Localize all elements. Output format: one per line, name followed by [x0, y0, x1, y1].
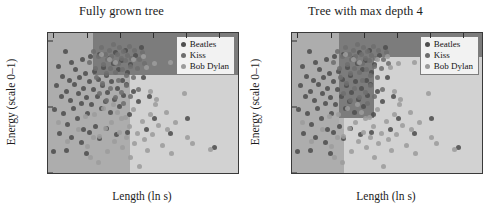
scatter-point-bob-dylan	[356, 139, 361, 144]
scatter-point-kiss	[100, 81, 105, 86]
scatter-point-beatles	[383, 45, 388, 50]
scatter-point-bob-dylan	[56, 120, 61, 125]
scatter-point-beatles	[75, 116, 80, 121]
scatter-point-beatles	[72, 82, 77, 87]
scatter-point-beatles	[51, 149, 56, 154]
scatter-point-bob-dylan	[309, 139, 314, 144]
scatter-point-kiss	[91, 49, 96, 54]
scatter-point-beatles	[325, 127, 330, 132]
legend-item-label: Bob Dylan	[190, 62, 229, 71]
scatter-point-beatles	[69, 60, 74, 65]
legend-item-label: Kiss	[434, 51, 450, 60]
scatter-point-beatles	[313, 60, 318, 65]
scatter-point-beatles	[307, 49, 312, 54]
scatter-point-bob-dylan	[389, 148, 394, 153]
scatter-point-kiss	[113, 95, 118, 100]
scatter-point-bob-dylan	[332, 155, 337, 160]
scatter-point-bob-dylan	[327, 114, 332, 119]
scatter-point-beatles	[68, 98, 73, 103]
scatter-point-bob-dylan	[190, 141, 195, 146]
legend-item-bob-dylan[interactable]: Bob Dylan	[181, 62, 229, 71]
scatter-point-beatles	[353, 79, 358, 84]
x-tick-mark	[120, 33, 121, 38]
x-tick-mark	[430, 33, 431, 38]
scatter-point-kiss	[364, 67, 369, 72]
legend-item-label: Beatles	[434, 40, 461, 49]
scatter-point-kiss	[121, 101, 126, 106]
scatter-point-bob-dylan	[379, 131, 384, 136]
scatter-point-beatles	[60, 74, 65, 79]
x-tick-mark	[463, 33, 464, 38]
scatter-point-kiss	[351, 48, 356, 53]
scatter-point-bob-dylan	[88, 155, 93, 160]
scatter-point-beatles	[327, 71, 332, 76]
scatter-point-bob-dylan	[413, 151, 418, 156]
scatter-point-beatles	[71, 106, 76, 111]
scatter-point-kiss	[124, 83, 129, 88]
scatter-point-bob-dylan	[103, 126, 108, 131]
scatter-point-bob-dylan	[150, 132, 155, 137]
y-axis-label-left: Energy (scale 0–1)	[4, 32, 18, 172]
scatter-point-kiss	[352, 86, 357, 91]
scatter-point-beatles	[77, 75, 82, 80]
scatter-point-beatles	[325, 86, 330, 91]
scatter-point-bob-dylan	[400, 123, 405, 128]
scatter-point-beatles	[57, 131, 62, 136]
scatter-point-bob-dylan	[381, 164, 386, 169]
legend-item-beatles[interactable]: Beatles	[181, 40, 229, 49]
scatter-point-beatles	[385, 75, 390, 80]
scatter-point-kiss	[352, 66, 357, 71]
scatter-point-kiss	[108, 86, 113, 91]
scatter-point-kiss	[127, 44, 132, 49]
scatter-point-beatles	[352, 110, 357, 115]
scatter-point-bob-dylan	[320, 127, 325, 132]
scatter-point-bob-dylan	[426, 91, 431, 96]
panel-title-left: Fully grown tree	[0, 4, 243, 19]
scatter-point-bob-dylan	[336, 112, 341, 117]
legend-item-bob-dylan[interactable]: Bob Dylan	[425, 62, 473, 71]
legend-item-kiss[interactable]: Kiss	[425, 51, 473, 60]
y-tick-mark	[292, 40, 297, 41]
scatter-point-beatles	[317, 67, 322, 72]
scatter-point-bob-dylan	[85, 144, 90, 149]
scatter-point-kiss	[99, 45, 104, 50]
scatter-point-beatles	[212, 145, 217, 150]
scatter-point-beatles	[320, 91, 325, 96]
scatter-point-bob-dylan	[173, 120, 178, 125]
scatter-point-bob-dylan	[169, 151, 174, 156]
scatter-point-beatles	[147, 94, 152, 99]
scatter-point-bob-dylan	[375, 57, 380, 62]
scatter-point-bob-dylan	[398, 97, 403, 102]
scatter-point-kiss	[368, 73, 373, 78]
scatter-point-bob-dylan	[140, 119, 145, 124]
scatter-point-bob-dylan	[300, 120, 305, 125]
scatter-point-beatles	[52, 107, 57, 112]
scatter-point-beatles	[141, 75, 146, 80]
x-tick-mark	[364, 33, 365, 38]
scatter-point-kiss	[344, 81, 349, 86]
scatter-point-kiss	[380, 87, 385, 92]
scatter-point-bob-dylan	[335, 135, 340, 140]
scatter-point-kiss	[97, 91, 102, 96]
scatter-point-kiss	[331, 60, 336, 65]
scatter-point-bob-dylan	[164, 110, 169, 115]
legend-item-kiss[interactable]: Kiss	[181, 51, 229, 60]
scatter-point-bob-dylan	[351, 57, 356, 62]
scatter-point-kiss	[372, 94, 377, 99]
scatter-point-beatles	[396, 116, 401, 121]
x-tick-mark	[219, 33, 220, 38]
scatter-point-bob-dylan	[376, 141, 381, 146]
scatter-point-kiss	[343, 45, 348, 50]
scatter-point-bob-dylan	[127, 124, 132, 129]
scatter-point-bob-dylan	[109, 120, 114, 125]
scatter-point-bob-dylan	[375, 107, 380, 112]
scatter-point-bob-dylan	[368, 135, 373, 140]
legend-item-beatles[interactable]: Beatles	[425, 40, 473, 49]
legend-item-label: Kiss	[190, 51, 206, 60]
scatter-point-bob-dylan	[132, 141, 137, 146]
legend-item-label: Beatles	[190, 40, 217, 49]
scatter-point-bob-dylan	[141, 54, 146, 59]
scatter-point-bob-dylan	[417, 120, 422, 125]
scatter-point-beatles	[324, 57, 329, 62]
plot-area-left: BeatlesKissBob Dylan00.514.555.566.57	[47, 32, 239, 174]
